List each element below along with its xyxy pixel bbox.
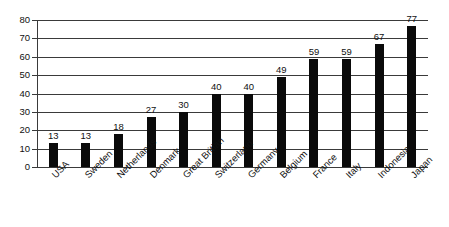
bar-value-label: 49: [268, 65, 294, 75]
y-axis-line: [37, 20, 38, 168]
bar-value-label: 13: [40, 131, 66, 141]
bar-chart: 01020304050607080 1313182730404049595967…: [0, 0, 449, 227]
y-tick-label: 0: [8, 162, 30, 172]
bar-value-label: 30: [171, 100, 197, 110]
y-tick-label: 30: [8, 107, 30, 117]
bar: [277, 77, 286, 167]
y-tick-mark-20: [32, 130, 37, 131]
bar: [81, 143, 90, 167]
bar: [179, 112, 188, 167]
y-tick-label: 70: [8, 34, 30, 44]
y-tick-mark-80: [32, 20, 37, 21]
bar: [244, 94, 253, 168]
bar-value-label: 18: [105, 122, 131, 132]
bar-value-label: 59: [334, 47, 360, 57]
y-tick-mark-10: [32, 149, 37, 150]
bar-value-label: 27: [138, 105, 164, 115]
gridline-40: [37, 94, 428, 95]
bar: [147, 117, 156, 167]
bar-value-label: 77: [399, 14, 425, 24]
bar: [342, 59, 351, 167]
y-tick-mark-50: [32, 75, 37, 76]
y-tick-mark-40: [32, 94, 37, 95]
gridline-10: [37, 149, 428, 150]
bar: [114, 134, 123, 167]
bar-value-label: 40: [236, 82, 262, 92]
y-tick-label: 40: [8, 89, 30, 99]
y-tick-mark-60: [32, 57, 37, 58]
gridline-80: [37, 20, 428, 21]
y-tick-label: 80: [8, 15, 30, 25]
y-tick-label: 50: [8, 70, 30, 80]
y-tick-label: 20: [8, 126, 30, 136]
bar-value-label: 59: [301, 47, 327, 57]
y-tick-mark-70: [32, 38, 37, 39]
gridline-50: [37, 75, 428, 76]
bar-value-label: 13: [73, 131, 99, 141]
gridline-30: [37, 112, 428, 113]
plot-area: [37, 20, 428, 167]
bar: [49, 143, 58, 167]
bar: [375, 44, 384, 167]
y-tick-mark-30: [32, 112, 37, 113]
bar: [212, 94, 221, 168]
bar: [407, 26, 416, 167]
y-tick-label: 60: [8, 52, 30, 62]
gridline-0: [37, 167, 428, 168]
gridline-60: [37, 57, 428, 58]
y-tick-mark-0: [32, 167, 37, 168]
bar: [309, 59, 318, 167]
bar-value-label: 40: [203, 82, 229, 92]
y-tick-label: 10: [8, 144, 30, 154]
bar-value-label: 67: [366, 32, 392, 42]
